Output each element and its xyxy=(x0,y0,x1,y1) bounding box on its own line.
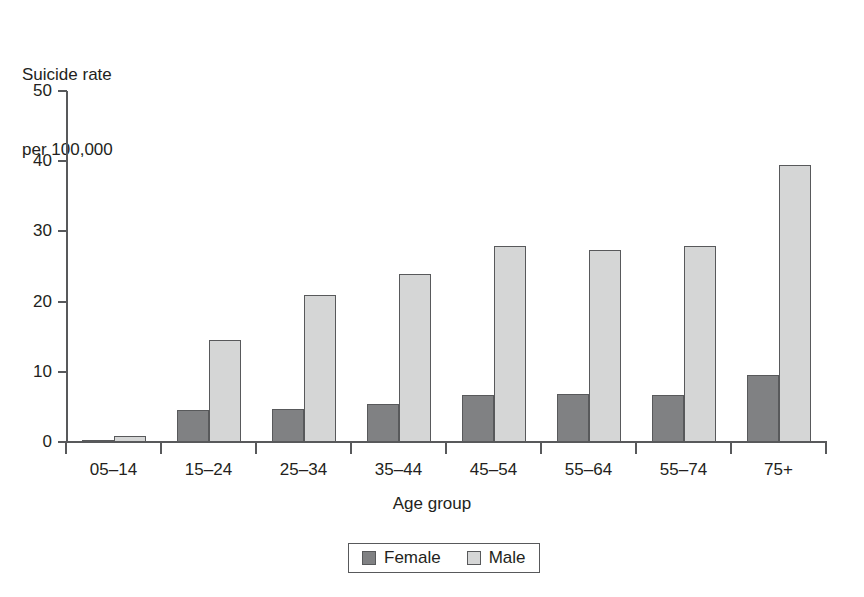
legend-swatch-male-icon xyxy=(467,551,481,565)
bar-female xyxy=(747,375,779,442)
y-axis-tick-label: 40 xyxy=(0,152,52,169)
bar-female xyxy=(82,440,114,442)
bar-male xyxy=(779,165,811,442)
x-axis-tick-label: 75+ xyxy=(719,460,839,480)
x-axis-tick xyxy=(445,443,447,454)
chart-legend: Female Male xyxy=(348,543,540,573)
x-axis-title: Age group xyxy=(0,494,864,514)
bar-female xyxy=(557,394,589,442)
bar-female xyxy=(177,410,209,442)
x-axis-tick xyxy=(825,443,827,454)
bar-male xyxy=(399,274,431,442)
x-axis-tick xyxy=(255,443,257,454)
suicide-rate-bar-chart: Suicide rate per 100,000 01020304050 05–… xyxy=(0,0,864,597)
bar-male xyxy=(684,246,716,442)
bar-male xyxy=(589,250,621,442)
x-axis-tick xyxy=(730,443,732,454)
legend-item-male: Male xyxy=(467,549,526,566)
bar-male xyxy=(114,436,146,442)
x-axis-tick xyxy=(350,443,352,454)
bar-male xyxy=(494,246,526,442)
bar-female xyxy=(272,409,304,442)
y-axis-tick-label: 50 xyxy=(0,82,52,99)
y-axis-tick-label: 20 xyxy=(0,293,52,310)
x-axis-tick xyxy=(540,443,542,454)
x-axis-tick xyxy=(65,443,67,454)
bar-female xyxy=(652,395,684,442)
x-axis-tick xyxy=(635,443,637,454)
y-axis-tick-label: 0 xyxy=(0,433,52,450)
y-axis-tick-label: 10 xyxy=(0,363,52,380)
x-axis-tick xyxy=(160,443,162,454)
bar-female xyxy=(462,395,494,442)
bar-female xyxy=(367,404,399,442)
legend-item-female: Female xyxy=(362,549,441,566)
legend-label-male: Male xyxy=(489,549,526,566)
legend-swatch-female-icon xyxy=(362,551,376,565)
y-axis-tick-label: 30 xyxy=(0,222,52,239)
bar-male xyxy=(209,340,241,442)
plot-area xyxy=(66,91,826,442)
legend-label-female: Female xyxy=(384,549,441,566)
bar-male xyxy=(304,295,336,442)
